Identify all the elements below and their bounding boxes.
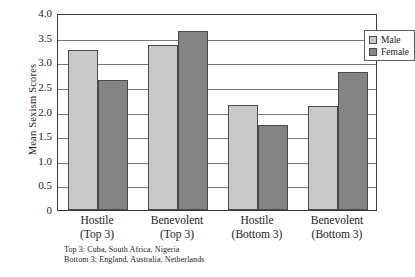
x-category-line1: Hostile: [57, 213, 137, 227]
bar-female: [178, 31, 208, 210]
y-tick-label: 4.0: [14, 8, 52, 19]
x-axis-category-labels: Hostile(Top 3)Benevolent(Top 3)Hostile(B…: [57, 213, 377, 245]
plot-area: Male Female: [57, 14, 377, 211]
x-category-line1: Benevolent: [137, 213, 217, 227]
y-tick-label: 3.5: [14, 33, 52, 44]
x-category-label: Benevolent(Top 3): [137, 213, 217, 241]
bar-female: [98, 80, 128, 210]
y-tick-label: 0.5: [14, 180, 52, 191]
y-tick-label: 1.5: [14, 131, 52, 142]
footnote-bottom3: Bottom 3: England, Australia, Netherland…: [64, 255, 205, 265]
bar-male: [68, 50, 98, 210]
x-category-line2: (Bottom 3): [217, 227, 297, 241]
x-category-line2: (Top 3): [137, 227, 217, 241]
legend-label-male: Male: [381, 35, 401, 45]
x-category-line2: (Top 3): [57, 227, 137, 241]
y-axis-tick-labels: 4.03.53.02.52.01.51.00.50: [14, 14, 52, 211]
x-category-label: Hostile(Bottom 3): [217, 213, 297, 241]
legend-label-female: Female: [381, 47, 409, 57]
x-category-line2: (Bottom 3): [297, 227, 377, 241]
legend-item-male[interactable]: Male: [369, 34, 409, 45]
x-category-line1: Hostile: [217, 213, 297, 227]
bar-female: [258, 125, 288, 210]
legend-item-female[interactable]: Female: [369, 46, 409, 57]
legend: Male Female: [364, 30, 415, 61]
x-category-line1: Benevolent: [297, 213, 377, 227]
y-tick-label: 0: [14, 205, 52, 216]
bar-male: [308, 106, 338, 210]
bar-male: [148, 45, 178, 210]
legend-swatch-female-icon: [369, 48, 377, 56]
footnotes: Top 3: Cuba, South Africa, Nigeria Botto…: [64, 245, 205, 265]
x-category-label: Benevolent(Bottom 3): [297, 213, 377, 241]
footnote-top3: Top 3: Cuba, South Africa, Nigeria: [64, 245, 205, 255]
x-category-label: Hostile(Top 3): [57, 213, 137, 241]
bars-layer: [58, 15, 376, 210]
y-tick-label: 1.0: [14, 156, 52, 167]
y-tick-label: 2.0: [14, 107, 52, 118]
y-tick-label: 3.0: [14, 57, 52, 68]
y-tick-label: 2.5: [14, 82, 52, 93]
bar-male: [228, 105, 258, 210]
bar-female: [338, 72, 368, 210]
legend-swatch-male-icon: [369, 36, 377, 44]
